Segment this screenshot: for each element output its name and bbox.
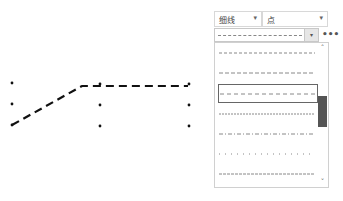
line-style-option[interactable] bbox=[218, 125, 318, 144]
point-label: 点 bbox=[267, 14, 275, 25]
line-style-option[interactable] bbox=[218, 64, 318, 83]
line-style-combo[interactable]: ▾ bbox=[214, 28, 319, 42]
grid-point bbox=[188, 125, 191, 128]
line-style-option[interactable] bbox=[218, 105, 318, 124]
scrollbar[interactable]: ˄ ˅ bbox=[318, 44, 327, 186]
point-combo[interactable]: 点 ▾ bbox=[262, 11, 328, 27]
line-style-list[interactable]: ˄ ˅ bbox=[214, 42, 329, 188]
line-type-label: 细线 bbox=[219, 14, 235, 25]
grid-point bbox=[99, 104, 102, 107]
line-style-option[interactable] bbox=[218, 145, 318, 164]
grid-point bbox=[188, 83, 191, 86]
grid-point bbox=[188, 104, 191, 107]
drawing-canvas[interactable] bbox=[0, 0, 210, 201]
scroll-up-icon[interactable]: ˄ bbox=[318, 44, 327, 52]
scroll-down-icon[interactable]: ˅ bbox=[318, 178, 327, 186]
grid-point bbox=[11, 103, 14, 106]
grid-points bbox=[11, 82, 191, 128]
line-style-option[interactable] bbox=[218, 84, 318, 103]
chevron-down-icon[interactable]: ▾ bbox=[304, 29, 318, 41]
grid-point bbox=[99, 125, 102, 128]
line-style-option[interactable] bbox=[218, 165, 318, 184]
line-style-preview bbox=[218, 35, 302, 36]
scrollbar-thumb[interactable] bbox=[318, 96, 327, 127]
line-style-option[interactable] bbox=[218, 44, 318, 63]
chevron-down-icon: ▾ bbox=[319, 14, 323, 22]
line-type-combo[interactable]: 细线 ▾ bbox=[214, 11, 262, 27]
more-options-button[interactable]: ••• bbox=[322, 29, 339, 39]
chevron-down-icon: ▾ bbox=[253, 14, 257, 22]
grid-point bbox=[11, 82, 14, 85]
